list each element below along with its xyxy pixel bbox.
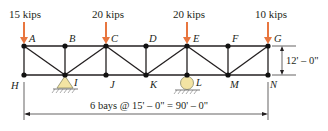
node-label-G: G [274,33,282,44]
node-B [62,43,67,48]
node-label-B: B [69,33,76,44]
node-F [225,43,230,48]
node-label-H: H [10,80,20,91]
truss-members [24,46,268,75]
node-label-J: J [110,79,116,90]
truss-diagram: 15 kips 20 kips 20 kips 10 kips A B C D … [0,0,328,131]
load-arrow-E [183,22,191,44]
diagonal-AI [24,46,65,75]
node-E [184,43,189,48]
node-A [21,43,26,48]
node-label-D: D [148,33,157,44]
node-label-I: I [73,77,78,88]
load-arrow-A [20,22,28,44]
node-label-A: A [28,33,36,44]
load-label-C: 20 kips [92,8,124,20]
node-label-M: M [229,79,240,90]
diagonal-CI [65,46,106,75]
node-label-E: E [192,33,200,44]
load-label-A: 15 kips [9,8,41,20]
node-H [21,72,26,77]
load-arrow-G [264,22,272,44]
node-label-F: F [231,33,239,44]
node-label-N: N [269,79,278,90]
node-label-L: L [195,77,202,88]
node-label-K: K [149,79,158,90]
diagonal-EM [187,46,228,75]
node-N [265,72,270,77]
node-C [103,43,108,48]
load-label-E: 20 kips [173,8,205,20]
node-I [62,72,67,77]
node-K [143,72,148,77]
load-label-G: 10 kips [255,8,287,20]
diagonal-EK [146,46,187,75]
node-L [184,72,189,77]
diagonal-CK [106,46,146,75]
node-D [143,43,148,48]
node-J [103,72,108,77]
height-dimension-label: 12' – 0" [286,55,318,66]
diagonal-GM [228,46,268,75]
load-arrow-C [102,22,110,44]
node-G [265,43,270,48]
node-M [225,72,230,77]
node-label-C: C [111,33,119,44]
span-dimension-label: 6 bays @ 15' – 0" = 90' – 0" [90,100,208,111]
